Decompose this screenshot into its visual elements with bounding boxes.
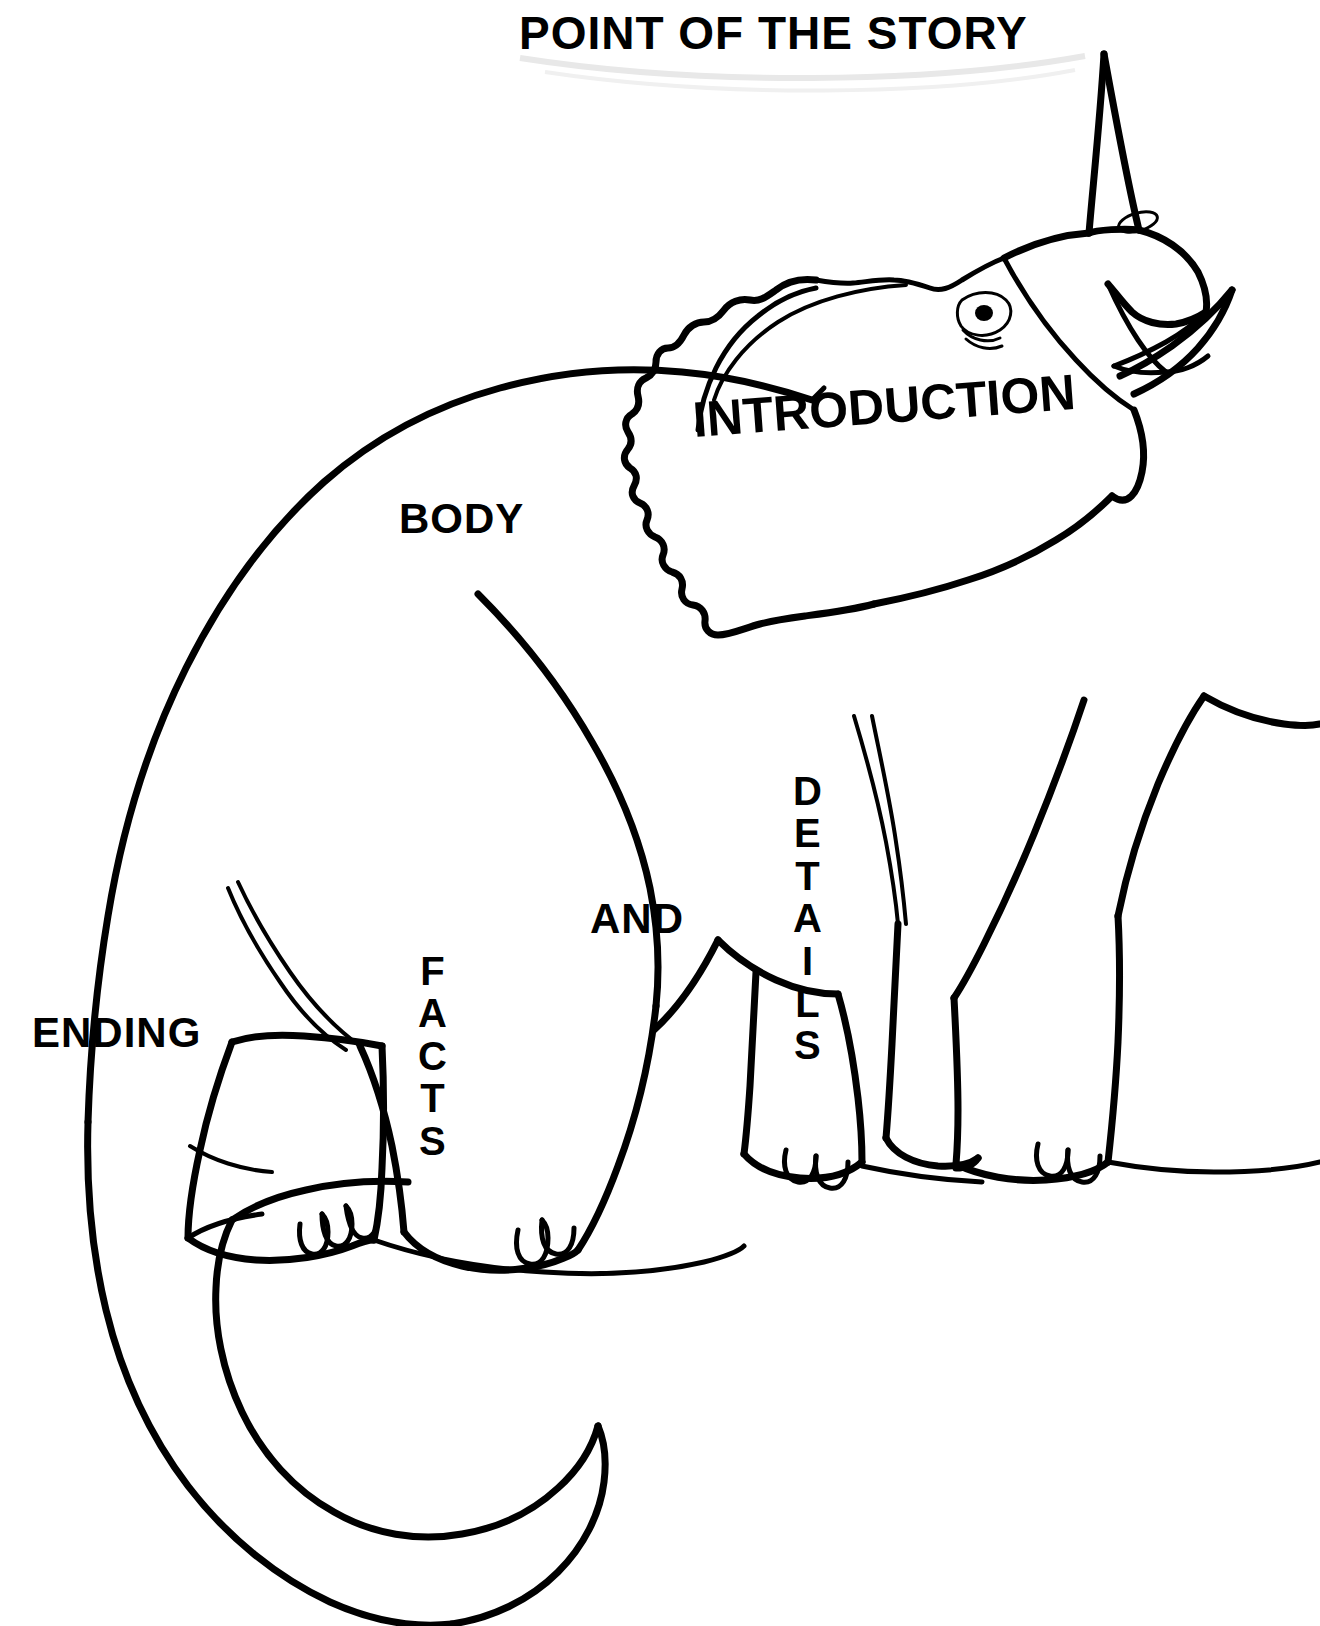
facts-letter-2: C [418, 1035, 447, 1077]
details-letter-6: S [794, 1024, 821, 1066]
facts-letter-0: F [420, 950, 444, 992]
details-letter-2: T [795, 855, 819, 897]
diagram-page: .ln { fill:none; stroke:#000; stroke-wid… [0, 0, 1320, 1626]
facts-letter-4: S [419, 1120, 446, 1162]
details-letter-3: A [793, 897, 822, 939]
label-ending: ENDING [32, 1012, 201, 1054]
label-details-vertical: D E T A I L S [793, 770, 822, 1067]
label-facts-vertical: F A C T S [418, 950, 447, 1162]
details-letter-5: L [795, 982, 819, 1024]
title-point-of-the-story: POINT OF THE STORY [519, 10, 1028, 56]
label-and: AND [590, 898, 684, 940]
details-letter-0: D [793, 770, 822, 812]
facts-letter-1: A [418, 992, 447, 1034]
front-foot-near [744, 1150, 862, 1188]
label-body: BODY [399, 498, 524, 540]
details-letter-4: I [802, 940, 813, 982]
facts-letter-3: T [420, 1077, 444, 1119]
neck-frill-shape [624, 279, 906, 635]
eye-shape [957, 293, 1010, 349]
open-beak-shape [1108, 284, 1232, 394]
dinosaur-illustration: .ln { fill:none; stroke:#000; stroke-wid… [0, 0, 1320, 1626]
details-letter-1: E [794, 812, 821, 854]
nose-horn-shape [1089, 54, 1139, 233]
